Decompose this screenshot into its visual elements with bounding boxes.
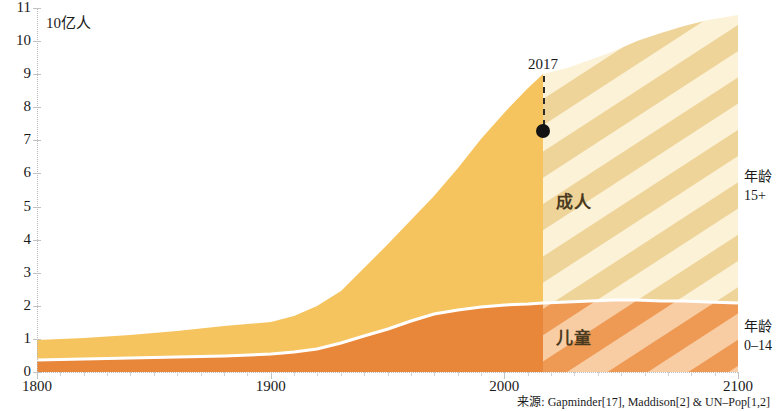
y-axis-unit-label: 10亿人 bbox=[46, 11, 91, 32]
y-axis-tick-label: 7 bbox=[1, 132, 31, 147]
x-axis-tick-label: 1900 bbox=[236, 378, 306, 395]
y-axis-tick-label: 1 bbox=[1, 331, 31, 346]
x-axis-tick-minor bbox=[107, 372, 108, 376]
y-axis-tick bbox=[33, 173, 41, 174]
x-axis-tick-minor bbox=[691, 372, 692, 376]
x-axis-tick-minor bbox=[551, 372, 552, 376]
x-axis-tick-minor bbox=[201, 372, 202, 376]
x-axis-tick-minor bbox=[458, 372, 459, 376]
legend-age-15-plus: 年龄 15+ bbox=[744, 168, 772, 206]
y-axis-tick bbox=[33, 74, 41, 75]
y-axis-tick bbox=[33, 273, 41, 274]
x-axis-tick-minor bbox=[388, 372, 389, 376]
x-axis-tick-minor bbox=[247, 372, 248, 376]
source-note: 来源: Gapminder[17], Maddison[2] & UN–Pop[… bbox=[517, 392, 770, 410]
y-axis-tick bbox=[33, 207, 41, 208]
x-axis-tick-minor bbox=[84, 372, 85, 376]
population-area-chart: 10亿人 01234567891011 1800190020002100 成人 … bbox=[0, 0, 776, 411]
y-axis-tick-label: 9 bbox=[1, 66, 31, 81]
y-axis-tick bbox=[33, 41, 41, 42]
stacked-area-series bbox=[37, 8, 738, 372]
x-axis-tick-minor bbox=[574, 372, 575, 376]
x-axis-tick-minor bbox=[434, 372, 435, 376]
legend-children-line1: 年龄 bbox=[744, 319, 772, 334]
x-axis-tick-minor bbox=[715, 372, 716, 376]
legend-children-line2: 0–14 bbox=[744, 337, 772, 356]
y-axis-line bbox=[37, 8, 38, 372]
plot-area bbox=[37, 8, 738, 372]
y-axis-tick-label: 10 bbox=[1, 33, 31, 48]
y-axis-tick bbox=[33, 107, 41, 108]
x-axis-tick-minor bbox=[130, 372, 131, 376]
x-axis-tick-minor bbox=[341, 372, 342, 376]
annotation-year-label: 2017 bbox=[500, 56, 586, 73]
y-axis-tick bbox=[33, 8, 41, 9]
legend-adults-line1: 年龄 bbox=[744, 169, 772, 184]
x-axis-tick-minor bbox=[364, 372, 365, 376]
x-axis-tick-minor bbox=[668, 372, 669, 376]
annotation-dot-marker bbox=[536, 124, 550, 138]
x-axis-tick-minor bbox=[60, 372, 61, 376]
x-axis-tick-label: 1800 bbox=[2, 378, 72, 395]
x-axis-tick-minor bbox=[154, 372, 155, 376]
x-axis-tick-minor bbox=[224, 372, 225, 376]
y-axis-tick-label: 0 bbox=[1, 364, 31, 379]
y-axis-tick-label: 2 bbox=[1, 298, 31, 313]
x-axis-tick-minor bbox=[411, 372, 412, 376]
y-axis-tick-label: 5 bbox=[1, 199, 31, 214]
y-axis-tick-label: 3 bbox=[1, 265, 31, 280]
y-axis-tick-label: 4 bbox=[1, 232, 31, 247]
y-axis-tick bbox=[33, 339, 41, 340]
y-axis-tick-label: 6 bbox=[1, 165, 31, 180]
x-axis-tick-minor bbox=[645, 372, 646, 376]
y-axis-tick bbox=[33, 306, 41, 307]
x-axis-tick-minor bbox=[294, 372, 295, 376]
x-axis-tick-minor bbox=[598, 372, 599, 376]
y-axis-tick bbox=[33, 140, 41, 141]
x-axis-tick-minor bbox=[621, 372, 622, 376]
y-axis-tick bbox=[33, 240, 41, 241]
annotation-leader-line bbox=[543, 76, 545, 126]
y-axis-tick-label: 11 bbox=[1, 0, 31, 15]
x-axis-tick-minor bbox=[317, 372, 318, 376]
legend-adults-line2: 15+ bbox=[744, 187, 772, 206]
x-axis-tick-minor bbox=[481, 372, 482, 376]
legend-age-0-14: 年龄 0–14 bbox=[744, 318, 772, 356]
series-label-children: 儿童 bbox=[556, 324, 592, 349]
x-axis-tick-minor bbox=[528, 372, 529, 376]
x-axis-tick-minor bbox=[177, 372, 178, 376]
y-axis-tick-label: 8 bbox=[1, 99, 31, 114]
series-label-adults: 成人 bbox=[556, 188, 592, 213]
